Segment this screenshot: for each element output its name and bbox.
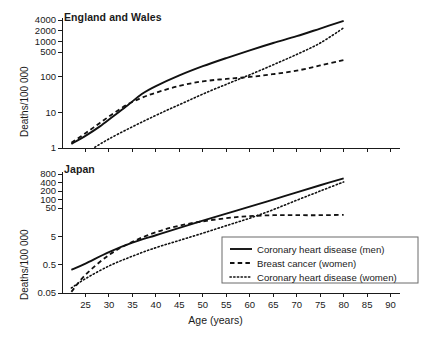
x-tick-label: 30	[104, 299, 115, 310]
y-tick-label: 800	[40, 168, 56, 179]
x-tick-label: 25	[80, 299, 91, 310]
series-line-solid	[71, 21, 343, 144]
legend: Coronary heart disease (men)Breast cance…	[222, 237, 418, 283]
y-axis-title-bottom: Deaths/100 000	[19, 229, 30, 300]
x-tick-label: 60	[244, 299, 255, 310]
legend-label: Coronary heart disease (women)	[257, 272, 397, 283]
x-tick-label: 35	[127, 299, 138, 310]
series-line-dashed	[71, 60, 343, 143]
x-tick-label: 45	[174, 299, 185, 310]
y-tick-label: 1000	[35, 36, 56, 47]
y-tick-label: 500	[40, 46, 56, 57]
panel-title-japan: Japan	[64, 163, 95, 175]
plot-area-top: 110100500100020004000	[0, 0, 431, 162]
y-tick-label: 100	[40, 71, 56, 82]
y-tick-label: 2000	[35, 25, 56, 36]
y-tick-label: 0.05	[38, 287, 57, 298]
y-tick-label: 4000	[35, 14, 56, 25]
panel-title-england-and-wales: England and Wales	[64, 11, 162, 23]
panel-england-and-wales: England and Wales Deaths/100 000 1101005…	[0, 0, 431, 162]
y-tick-label: 10	[45, 107, 56, 118]
mortality-age-figure: England and Wales Deaths/100 000 1101005…	[0, 0, 431, 342]
y-tick-label: 1	[51, 142, 56, 153]
x-axis-title: Age (years)	[0, 314, 431, 326]
x-tick-label: 50	[198, 299, 209, 310]
x-tick-label: 85	[362, 299, 373, 310]
x-tick-label: 40	[151, 299, 162, 310]
y-axis-title-top: Deaths/100 000	[19, 66, 30, 137]
legend-label: Breast cancer (women)	[257, 258, 356, 269]
x-tick-label: 55	[221, 299, 232, 310]
legend-label: Coronary heart disease (men)	[257, 244, 384, 255]
x-tick-label: 90	[385, 299, 396, 310]
y-tick-label: 0.5	[43, 259, 56, 270]
x-tick-label: 80	[338, 299, 349, 310]
y-tick-label: 5	[51, 231, 56, 242]
x-tick-label: 75	[315, 299, 326, 310]
x-tick-label: 70	[291, 299, 302, 310]
x-tick-label: 65	[268, 299, 279, 310]
series-line-dotted	[95, 28, 344, 147]
